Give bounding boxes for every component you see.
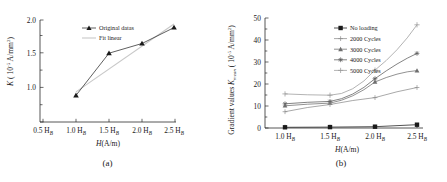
legend-label-3000-cycles: 3000 Cycles [350, 46, 381, 53]
chart-a-x-tick-labels: 0.5 HB 1.0 HB 1.5 HB 2.0 HB 2.5 HB [33, 126, 184, 136]
x-tick-label-4: 2.0 HB [132, 126, 152, 136]
x-tick-label-5: 2.5 HB [164, 126, 184, 136]
chart-b-legend: No loading 2000 Cycles 3000 Cycles [334, 24, 381, 73]
series-3000-cycles [283, 68, 420, 107]
figure-row: K ( 10-5 A/mm2) 1.0 1.5 2.0 [0, 0, 447, 182]
xb-tick-label-4: 2.5 HB [407, 132, 427, 142]
yb-tick-label-50: 50 [254, 14, 262, 23]
legend-marker-plus [338, 36, 343, 41]
legend-item-4000-cycles: 4000 Cycles [334, 56, 381, 63]
yb-label-lead: Gradient values [227, 85, 236, 135]
y-label-close: A/mm [6, 42, 15, 63]
yb-tick-label-40: 40 [254, 36, 262, 45]
y-label-open: ( 10 [6, 67, 15, 81]
yb-tick-label-20: 20 [254, 80, 262, 89]
xb-tick-label-1: 1.0 HB [275, 132, 295, 142]
yb-label-symbol-sub: mean [232, 69, 237, 80]
svg-text:K ( 10-5 A/mm2): K ( 10-5 A/mm2) [6, 37, 15, 87]
chart-a-y-tick-labels: 1.0 1.5 2.0 [27, 16, 37, 92]
yb-tick-label-0: 0 [257, 124, 261, 133]
x-tick-label-1: 0.5 HB [33, 126, 53, 136]
legend-label-2000-cycles: 2000 Cycles [350, 35, 381, 42]
panel-a-caption: (a) [0, 158, 219, 168]
legend-item-fit-linear: Fit linear [82, 34, 122, 41]
y-tick-label-1: 1.0 [27, 83, 37, 92]
legend-label-fit-linear: Fit linear [99, 34, 122, 41]
legend-item-3000-cycles: 3000 Cycles [334, 46, 381, 53]
chart-b-y-ticks [265, 18, 269, 128]
legend-item-2000-cycles: 2000 Cycles [334, 35, 381, 42]
chart-a-x-ticks [43, 119, 175, 122]
chart-b-axes [265, 18, 423, 128]
markers-no-loading [283, 123, 419, 130]
chart-panel-a: K ( 10-5 A/mm2) 1.0 1.5 2.0 [0, 0, 223, 182]
chart-a-x-axis-label: H(A/m) [95, 139, 121, 148]
xb-tick-label-3: 2.0 HB [365, 132, 385, 142]
markers-3000-cycles [283, 68, 420, 107]
legend-label-5000-cycles: 5000 Cycles [350, 67, 381, 74]
x-tick-label-2: 1.0 HB [66, 126, 86, 136]
chart-b-x-axis-label: H(A/m) [334, 145, 360, 154]
panel-b-caption: (b) [229, 158, 447, 168]
y-label-tail: ) [6, 37, 15, 40]
legend-marker-star [338, 57, 343, 62]
xb-tick-label-2: 1.5 HB [320, 132, 340, 142]
chart-a-y-axis-label: K ( 10-5 A/mm2) [6, 37, 15, 87]
chart-panel-b: Gradient values Kmean ( 10-5 A/mm2) [223, 0, 447, 182]
chart-b-y-tick-labels: 0 10 20 30 40 50 [254, 14, 262, 133]
x-tick-label-3: 1.5 HB [99, 126, 119, 136]
chart-a-legend: Original datas Fit linear [82, 24, 134, 41]
legend-label-original-datas: Original datas [99, 24, 134, 31]
legend-label-no-loading: No loading [350, 24, 378, 31]
legend-label-4000-cycles: 4000 Cycles [350, 56, 381, 63]
legend-item-original-datas: Original datas [82, 24, 134, 31]
yb-tick-label-30: 30 [254, 58, 262, 67]
yb-tick-label-10: 10 [254, 102, 262, 111]
y-tick-label-3: 2.0 [27, 16, 37, 25]
chart-a-svg: K ( 10-5 A/mm2) 1.0 1.5 2.0 [0, 0, 223, 158]
chart-a-y-ticks [40, 20, 44, 122]
legend-item-no-loading: No loading [334, 24, 378, 31]
series-no-loading [283, 123, 419, 130]
svg-text:Gradient values Kmean ( 10-5 A: Gradient values Kmean ( 10-5 A/mm2) [227, 25, 237, 135]
y-tick-label-2: 1.5 [27, 49, 37, 58]
yb-label-tail: ) [227, 25, 236, 28]
legend-marker-square [338, 26, 342, 30]
legend-item-5000-cycles: 5000 Cycles [334, 67, 381, 74]
yb-label-open: ( 10 [227, 55, 236, 69]
chart-b-y-axis-label: Gradient values Kmean ( 10-5 A/mm2) [227, 25, 237, 135]
yb-label-close: A/mm [227, 30, 236, 51]
chart-b-svg: Gradient values Kmean ( 10-5 A/mm2) [223, 0, 447, 158]
series-original-datas [73, 25, 177, 98]
legend-marker-cross [338, 68, 343, 73]
series-fit-linear-line [76, 24, 174, 92]
chart-b-x-tick-labels: 1.0 HB 1.5 HB 2.0 HB 2.5 HB [275, 132, 427, 142]
